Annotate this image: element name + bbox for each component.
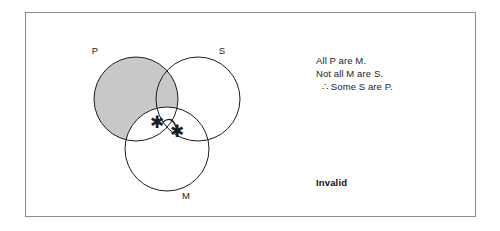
venn-label-p: P <box>92 45 98 56</box>
figure-root: P S M ✱ ✱ All P are M. Not all M are S. … <box>0 0 500 231</box>
venn-label-m: M <box>182 190 190 201</box>
verdict-label: Invalid <box>316 177 347 188</box>
argument-premise-2: Not all M are S. <box>316 67 393 80</box>
venn-label-s: S <box>219 45 225 56</box>
argument-conclusion: ∴ Some S are P. <box>316 80 393 93</box>
argument-premise-1: All P are M. <box>316 54 393 67</box>
venn-diagram: P S M ✱ ✱ <box>81 39 301 219</box>
asterisk-marker-left: ✱ <box>150 113 164 132</box>
figure-frame: P S M ✱ ✱ All P are M. Not all M are S. … <box>25 12 476 217</box>
asterisk-marker-right: ✱ <box>170 122 184 141</box>
argument-text: All P are M. Not all M are S. ∴ Some S a… <box>316 54 393 94</box>
